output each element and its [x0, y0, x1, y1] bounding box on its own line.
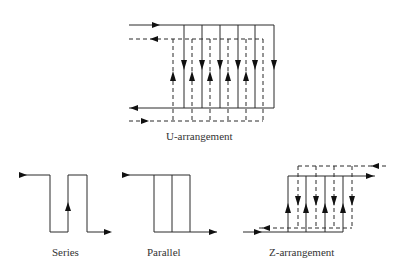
- parallel-figure: [122, 172, 217, 235]
- z-arrangement-figure: [243, 163, 388, 235]
- arrow-right-icon: [152, 22, 160, 28]
- series-label: Series: [52, 246, 79, 258]
- arrow-right-icon: [366, 173, 374, 179]
- arrow-right-icon: [122, 172, 130, 178]
- arrow-right-icon: [104, 229, 112, 235]
- arrow-left-icon: [150, 36, 158, 42]
- z-arrangement-label: Z-arrangement: [269, 246, 334, 258]
- arrow-left-icon: [371, 163, 379, 169]
- parallel-label: Parallel: [147, 246, 181, 258]
- u-arrangement-label: U-arrangement: [166, 130, 233, 142]
- arrow-right-icon: [141, 118, 149, 124]
- arrow-right-icon: [19, 172, 27, 178]
- arrow-right-icon: [209, 229, 217, 235]
- arrow-right-icon: [254, 229, 262, 235]
- arrow-up-icon: [65, 202, 71, 211]
- u-arrangement-figure: [129, 22, 277, 124]
- series-figure: [19, 172, 112, 235]
- arrow-left-icon: [130, 105, 138, 111]
- arrow-left-icon: [262, 225, 270, 231]
